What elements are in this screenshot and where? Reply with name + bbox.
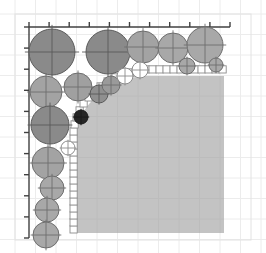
boundary-cell <box>70 135 77 142</box>
boundary-cell <box>70 170 77 177</box>
data-circle <box>124 28 162 66</box>
boundary-cell <box>70 128 77 135</box>
boundary-cell <box>156 66 163 73</box>
data-circle <box>27 73 65 111</box>
boundary-cell <box>170 66 177 73</box>
data-circle <box>28 103 73 148</box>
boundary-cell <box>70 198 77 205</box>
figure-canvas <box>0 0 266 253</box>
boundary-cell <box>70 205 77 212</box>
data-circle <box>25 25 79 79</box>
boundary-cell <box>70 191 77 198</box>
boundary-cell <box>70 177 77 184</box>
plot-svg <box>0 0 266 253</box>
boundary-cell <box>149 66 156 73</box>
boundary-cell <box>70 219 77 226</box>
boundary-cell <box>198 66 205 73</box>
boundary-cell <box>70 156 77 163</box>
boundary-cell <box>70 212 77 219</box>
boundary-cell <box>70 184 77 191</box>
boundary-cell <box>70 226 77 233</box>
boundary-cell <box>70 163 77 170</box>
data-circle <box>33 196 61 224</box>
boundary-cell <box>163 66 170 73</box>
